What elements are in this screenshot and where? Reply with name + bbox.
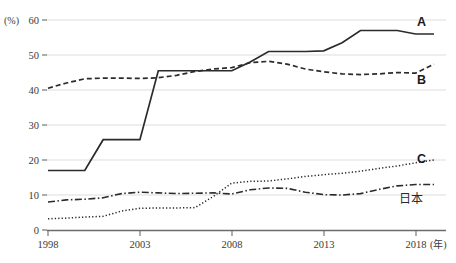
x-axis-unit-label: (年) [430,238,447,251]
x-axis-label-1998: 1998 [38,239,59,250]
series-line-japan [48,185,434,203]
x-axis-label-2008: 2008 [222,239,243,250]
series-label-japan: 日本 [399,192,423,206]
series-label-b: B [417,73,426,87]
series-line-b [48,61,434,88]
series-line-a [48,31,434,171]
x-axis-label-2003: 2003 [130,239,151,250]
y-axis-label-50: 50 [29,50,40,61]
y-axis-unit-label: (%) [4,15,19,27]
y-axis-label-30: 30 [29,120,40,131]
line-chart: 60 50 40 30 20 10 0 (%) 1998 2003 2008 2… [0,0,456,263]
x-axis-label-2013: 2013 [314,239,335,250]
y-axis-label-60: 60 [29,15,40,26]
y-axis-label-0: 0 [34,225,39,236]
series-label-c: C [417,152,426,166]
series-legend: A B C 日本 [399,15,426,206]
x-axis-label-2018: 2018 [406,239,427,250]
y-axis-label-10: 10 [29,190,40,201]
y-axis-ticks [42,20,47,230]
y-axis-label-20: 20 [29,155,40,166]
y-axis-labels: 60 50 40 30 20 10 0 [29,15,40,236]
y-axis-label-40: 40 [29,85,40,96]
chart-canvas: 60 50 40 30 20 10 0 (%) 1998 2003 2008 2… [0,0,456,263]
series-label-a: A [417,15,426,29]
x-axis-labels: 1998 2003 2008 2013 2018 (年) [38,238,447,251]
gridlines [47,20,446,195]
